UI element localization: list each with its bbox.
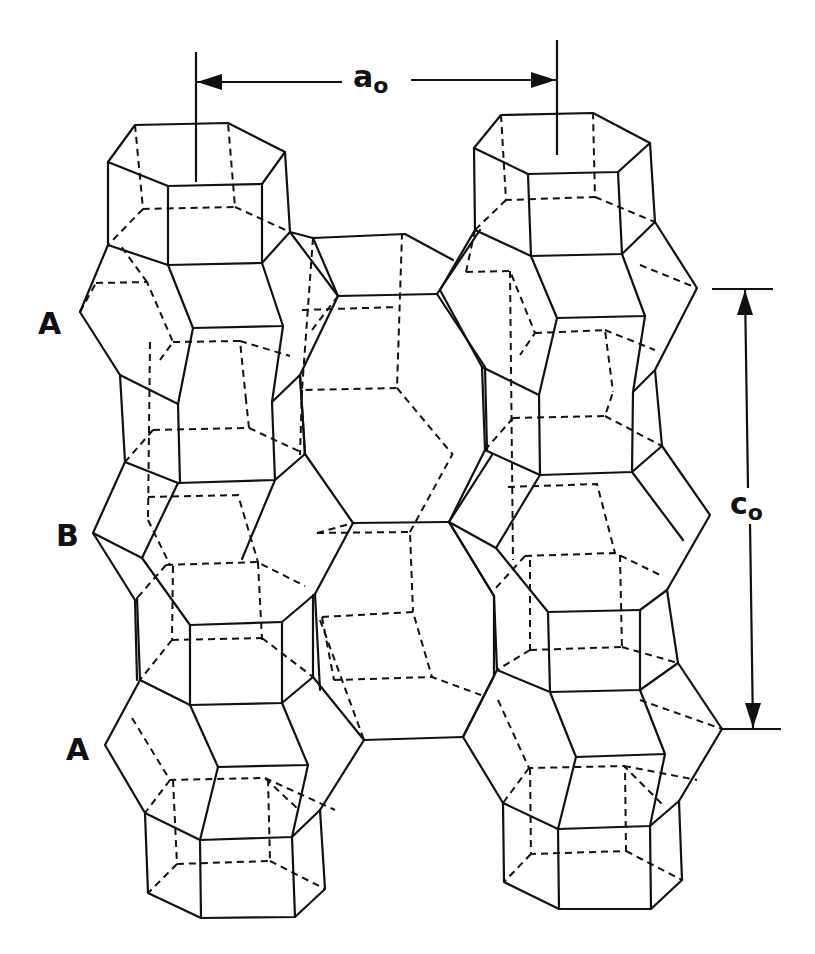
- right-lower-hex-prism: [494, 590, 678, 692]
- left-lower-hex-prism: [137, 595, 313, 705]
- arrow-up-icon: [737, 290, 753, 315]
- dimension-c-subscript: o: [748, 500, 763, 525]
- left-top-hex-prism: [108, 123, 290, 265]
- zeolite-framework-diagram: [0, 0, 815, 954]
- left-bottom-hex-prism: [145, 778, 325, 918]
- right-upper-cage: [440, 222, 697, 395]
- right-middle-hex-prism: [482, 271, 662, 560]
- arrow-down-icon: [745, 703, 761, 728]
- right-lower-cage: [463, 663, 722, 829]
- left-lower-cage: [105, 620, 364, 840]
- left-column: [80, 123, 364, 918]
- dimension-a-symbol: a: [353, 59, 373, 94]
- dimension-a-label: ao: [349, 62, 392, 97]
- layer-label-middle-b: B: [56, 521, 79, 551]
- arrow-right-icon: [531, 72, 556, 88]
- dimension-c-symbol: c: [730, 486, 748, 521]
- arrow-left-icon: [197, 74, 222, 90]
- right-column: [440, 113, 722, 909]
- right-top-hex-prism: [474, 113, 655, 256]
- right-bottom-hex-prism: [503, 766, 682, 909]
- layer-label-top-a: A: [38, 309, 61, 339]
- layer-label-bottom-a: A: [66, 735, 89, 765]
- dimension-a-subscript: o: [373, 73, 388, 98]
- central-cage: [290, 230, 494, 740]
- dimension-c-label: co: [726, 489, 767, 524]
